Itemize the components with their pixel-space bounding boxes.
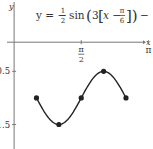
eq-frac1-num: 1	[61, 7, 65, 15]
data-point	[56, 122, 61, 127]
eq-close: ])	[126, 7, 138, 25]
eq-func: sin	[69, 9, 85, 21]
x-tick-label-num: π	[79, 45, 84, 54]
y-axis-label: y	[8, 2, 14, 11]
data-point	[123, 95, 128, 100]
equation-annotation: y = − 1 2 sin ( 3 [ x − π 6 ]) − 1	[35, 7, 153, 25]
data-point	[101, 69, 106, 74]
y-tick-label: −0.5	[0, 66, 10, 76]
data-point	[34, 95, 39, 100]
eq-var: x −	[103, 9, 121, 21]
data-point	[79, 95, 84, 100]
sine-graph: xy π2π−0.5−1.5 y = − 1 2 sin ( 3 [ x − π…	[0, 0, 153, 149]
y-tick-label: −1.5	[0, 120, 10, 130]
x-tick-label: π	[145, 45, 151, 55]
eq-frac1-den: 2	[61, 17, 65, 25]
eq-frac2-den: 6	[120, 17, 125, 25]
eq-frac2-num: π	[120, 7, 125, 15]
eq-open-paren: (	[86, 7, 92, 25]
eq-tail: − 1	[140, 9, 153, 21]
x-tick-label-den: 2	[79, 55, 84, 64]
